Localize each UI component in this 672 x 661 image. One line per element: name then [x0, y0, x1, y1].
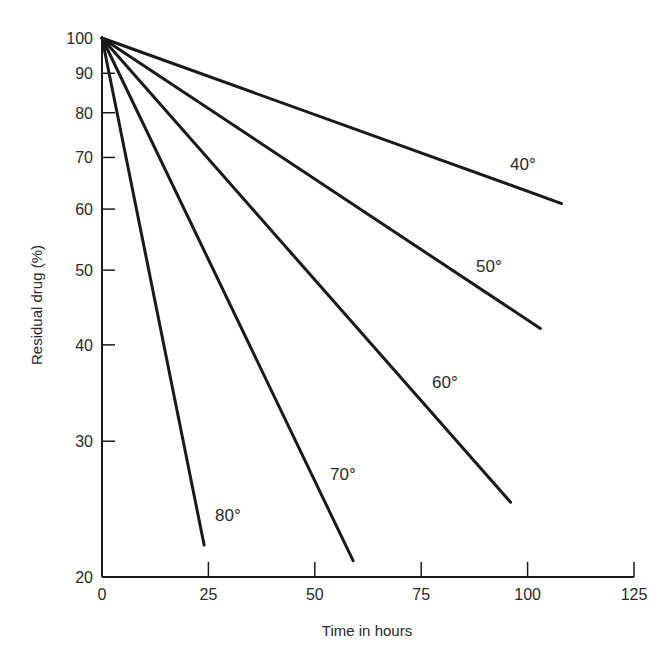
chart: 2030405060708090100 0255075100125 40° 50…	[0, 0, 672, 661]
x-tick-label: 25	[200, 586, 218, 603]
y-tick-label: 100	[66, 30, 93, 47]
series-line	[102, 38, 511, 502]
label-80: 80°	[215, 506, 241, 525]
y-tick-label: 20	[75, 569, 93, 586]
label-60: 60°	[432, 373, 458, 392]
x-tick-label: 50	[306, 586, 324, 603]
y-tick-label: 70	[75, 149, 93, 166]
y-tick-label: 80	[75, 105, 93, 122]
y-tick-label: 90	[75, 65, 93, 82]
y-axis-label: Residual drug (%)	[28, 245, 45, 365]
series-line	[102, 38, 204, 545]
label-70: 70°	[330, 465, 356, 484]
x-tick-label: 125	[621, 586, 648, 603]
x-axis-label: Time in hours	[322, 622, 412, 639]
y-tick-labels: 2030405060708090100	[66, 30, 93, 586]
y-ticks	[102, 73, 115, 441]
x-ticks	[208, 562, 634, 577]
y-tick-label: 40	[75, 337, 93, 354]
axes	[102, 38, 634, 577]
x-tick-labels: 0255075100125	[98, 586, 648, 603]
y-tick-label: 30	[75, 433, 93, 450]
y-tick-label: 50	[75, 262, 93, 279]
y-tick-label: 60	[75, 201, 93, 218]
x-tick-label: 100	[514, 586, 541, 603]
x-tick-label: 75	[412, 586, 430, 603]
label-40: 40°	[510, 155, 536, 174]
label-50: 50°	[476, 257, 502, 276]
x-tick-label: 0	[98, 586, 107, 603]
